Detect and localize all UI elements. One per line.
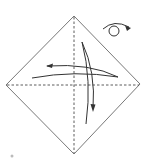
origami-diagram	[0, 0, 148, 160]
arrowhead-down-icon	[91, 104, 96, 112]
fold-arrow-vertical	[82, 42, 96, 124]
arrowhead-left-icon	[46, 64, 53, 69]
corner-mark	[11, 155, 14, 158]
fold-arrow-horizontal	[32, 64, 118, 79]
turn-over-icon	[103, 23, 131, 36]
